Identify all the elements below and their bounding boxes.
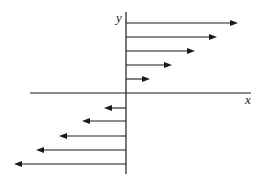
x-axis-label: x [244,92,251,107]
arrowhead-icon [142,76,150,82]
arrow-right [126,76,150,82]
arrowhead-icon [36,147,44,153]
arrow-right [126,34,217,40]
arrowhead-icon [187,48,195,54]
arrow-right [126,20,238,26]
arrowhead-icon [230,20,238,26]
arrowhead-icon [59,133,67,139]
arrowhead-icon [14,161,22,167]
arrowhead-icon [209,34,217,40]
arrowhead-icon [82,118,90,124]
vector-field-diagram: y x [0,0,269,186]
arrowhead-icon [104,105,112,111]
arrow-right [126,48,195,54]
arrowhead-icon [164,62,172,68]
arrow-left [82,118,126,124]
y-axis-label: y [114,10,122,25]
arrow-left [36,147,126,153]
arrow-left [14,161,126,167]
arrow-left [59,133,126,139]
arrow-right [126,62,172,68]
arrow-left [104,105,126,111]
